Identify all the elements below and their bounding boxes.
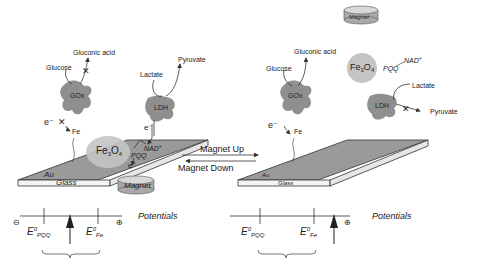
- svg-text:Potentials: Potentials: [372, 211, 412, 221]
- left-panel: Au Glass Magnet Fe3O4 NAD+ PQQ e⁻: [13, 49, 208, 258]
- svg-text:Pyruvate: Pyruvate: [178, 56, 206, 64]
- svg-text:e⁻: e⁻: [44, 117, 54, 127]
- svg-text:⊕: ⊕: [116, 218, 123, 227]
- svg-text:E0PQQ: E0PQQ: [27, 226, 51, 238]
- right-panel: Au Glass Magnet Fe3O4 PQQ NAD+ GOx Glu: [230, 6, 458, 258]
- right-ldh-enzyme: LDH Lactate ✕ Pyruvate: [367, 82, 458, 120]
- svg-text:Glucose: Glucose: [46, 64, 72, 71]
- au-label: Au: [43, 170, 54, 179]
- magnet-up-label: Magnet Up: [200, 144, 244, 154]
- svg-text:NAD+: NAD+: [404, 55, 422, 64]
- svg-text:GOx: GOx: [288, 92, 303, 99]
- svg-text:Gluconic acid: Gluconic acid: [294, 48, 336, 55]
- magnet-switch-diagram: Au Glass Magnet Fe3O4 NAD+ PQQ e⁻: [0, 0, 478, 272]
- svg-text:LDH: LDH: [375, 102, 389, 109]
- svg-text:Glass: Glass: [278, 180, 293, 186]
- svg-text:Magnet: Magnet: [349, 14, 369, 20]
- right-potentials-scale: ⊕ E0PQQ E0Fe Potentials: [230, 208, 412, 258]
- blocked-cross-icon: ✕: [82, 66, 90, 76]
- left-potentials-scale: ⊖ ⊕ E0PQQ E0Fe Potentials: [13, 208, 178, 258]
- svg-text:e⁻: e⁻: [268, 120, 278, 130]
- svg-text:Pyruvate: Pyruvate: [430, 108, 458, 116]
- svg-text:LDH: LDH: [154, 104, 168, 111]
- svg-text:PQQ: PQQ: [383, 65, 399, 73]
- svg-text:Lactate: Lactate: [140, 71, 163, 78]
- potential-arrow-icon: [66, 214, 74, 244]
- svg-text:Potentials: Potentials: [138, 211, 178, 221]
- glass-label: Glass: [56, 178, 76, 187]
- svg-text:E0PQQ: E0PQQ: [241, 226, 265, 238]
- magnet-down-label: Magnet Down: [178, 163, 234, 173]
- svg-text:Lactate: Lactate: [412, 82, 435, 89]
- svg-text:⊕: ⊕: [344, 218, 351, 227]
- svg-text:E0Fe: E0Fe: [86, 226, 104, 238]
- blocked-cross-icon: ✕: [58, 117, 66, 127]
- svg-text:Fe: Fe: [294, 128, 302, 135]
- potential-arrow-icon: [330, 214, 338, 244]
- svg-text:GOx: GOx: [70, 92, 85, 99]
- right-gox-enzyme: GOx Glucose Gluconic acid e⁻ Fe: [266, 48, 336, 162]
- svg-text:e⁻: e⁻: [144, 123, 152, 132]
- svg-text:E0Fe: E0Fe: [300, 226, 318, 238]
- left-ldh-enzyme: LDH Lactate Pyruvate e⁻: [140, 56, 206, 136]
- right-fe3o4-particle: Fe3O4 PQQ NAD+: [347, 53, 422, 83]
- svg-text:Fe: Fe: [72, 128, 80, 135]
- svg-text:Glucose: Glucose: [266, 65, 292, 72]
- left-magnet: Magnet: [118, 176, 154, 194]
- left-fe3o4-particle: Fe3O4: [86, 136, 130, 168]
- svg-text:Au: Au: [261, 172, 270, 178]
- blocked-cross-icon: ✕: [402, 104, 410, 114]
- right-electrode: Au Glass: [238, 140, 428, 186]
- svg-text:e⁻: e⁻: [128, 161, 136, 170]
- svg-text:⊖: ⊖: [13, 218, 20, 227]
- right-magnet: Magnet: [344, 6, 378, 24]
- magnet-label: Magnet: [124, 181, 151, 190]
- svg-text:Gluconic acid: Gluconic acid: [73, 49, 115, 56]
